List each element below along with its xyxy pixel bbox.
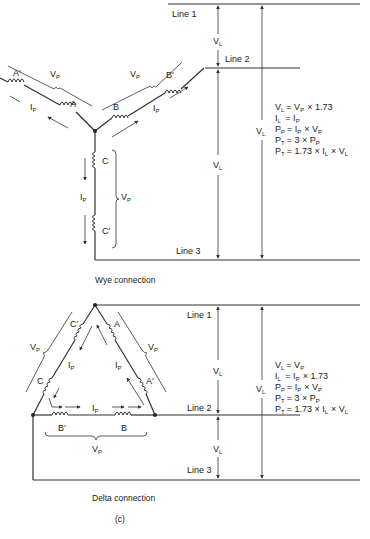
delta-coil-a-prime: A′: [146, 376, 154, 386]
wye-line2-label: Line 2: [225, 54, 250, 64]
delta-ip-arrow-c2: [54, 388, 59, 398]
wye-ip-line-a: [10, 96, 20, 102]
wye-ip-label-b: IP: [153, 103, 160, 114]
delta-ip-label-left: IP: [68, 360, 75, 371]
wye-coil-a: A: [70, 99, 76, 109]
delta-vl12-label: VL: [213, 366, 223, 377]
delta-caption: Delta connection: [92, 493, 156, 503]
delta-vp-label-left: VP: [30, 342, 40, 353]
wye-vl12-label: VL: [213, 36, 223, 47]
delta-line3-label: Line 3: [187, 465, 212, 475]
wye-vp-label-a: VP: [50, 69, 60, 80]
delta-coil-a: A: [114, 319, 120, 329]
wye-formula-0: VL= VP× 1.73: [275, 102, 332, 113]
wye-formulas: VL= VP× 1.73 IL = IP PP= IP× VP PT= 3 × …: [275, 102, 349, 157]
delta-ip-arrow-b1: [49, 398, 62, 407]
delta-coil-c: C: [37, 376, 44, 386]
delta-formula-1: IL = IP× 1.73: [275, 371, 328, 382]
wye-coil-c: C: [102, 156, 109, 166]
delta-vp-label-right: VP: [148, 342, 158, 353]
wye-formula-2: PP= IP× VP: [275, 124, 322, 135]
delta-line2-label: Line 2: [187, 403, 212, 413]
wye-formula-1: IL = IP: [275, 113, 300, 124]
delta-ip-label-right: IP: [115, 360, 122, 371]
wye-ip-label-a: IP: [30, 102, 37, 113]
wye-coil-b-prime: B′: [166, 70, 174, 80]
delta-formulas: VL= VP IL = IP× 1.73 PP= IP× VP PT= 3 × …: [275, 360, 349, 415]
delta-node-right: [153, 413, 157, 417]
delta-coil-b-prime: B′: [58, 423, 66, 433]
three-phase-connection-diagram: Line 1 Line 2 Line 3 A′ A B B′ C C′ VP V…: [0, 0, 370, 539]
delta-formula-0: VL= VP: [275, 360, 304, 371]
wye-vp-label-c: VP: [121, 192, 131, 203]
wye-ip-arrow-b: [112, 121, 138, 137]
delta-formula-2: PP= IP× VP: [275, 382, 322, 393]
delta-formula-4: PT= 1.73 × IL× VL: [275, 404, 349, 415]
delta-diagram: Line 1 Line 2 Line 3 C′ C A A′ B′ B VP V…: [26, 303, 360, 503]
delta-node-top: [93, 303, 97, 307]
delta-node-left: [31, 413, 35, 417]
wye-vp-brace-c: [112, 150, 119, 248]
delta-vp-brace-right: [118, 312, 166, 392]
delta-ip-label-bottom: IP: [92, 403, 99, 414]
delta-coil-c-prime: C′: [70, 319, 78, 329]
wye-caption: Wye connection: [95, 275, 156, 285]
delta-formula-3: PT= 3 × PP: [275, 393, 320, 404]
wye-ip-arrow-a: [48, 117, 68, 128]
delta-ip-arrow-a: [97, 325, 107, 345]
delta-vl23-label: VL: [213, 444, 223, 455]
wye-vl23-label: VL: [213, 160, 223, 171]
delta-vl13-label: VL: [256, 384, 266, 395]
delta-vp-label-bottom: VP: [92, 444, 102, 455]
wye-line1-label: Line 1: [172, 9, 197, 19]
wye-formula-4: PT= 1.73 × IL× VL: [275, 146, 349, 157]
delta-winding-a: [95, 305, 155, 415]
wye-ip-label-c: IP: [80, 192, 87, 203]
wye-coil-b: B: [113, 102, 119, 112]
wye-coil-a-prime: A′: [13, 68, 21, 78]
wye-vl13-label: VL: [256, 126, 266, 137]
figure-label: (c): [115, 514, 125, 524]
wye-vp-label-b: VP: [130, 69, 140, 80]
wye-winding-b: [95, 68, 204, 131]
delta-vp-brace-bottom: [45, 432, 147, 440]
delta-coil-b: B: [121, 423, 127, 433]
wye-line3-label: Line 3: [176, 246, 201, 256]
delta-ip-arrow-c: [80, 326, 92, 350]
wye-formula-3: PT= 3 × PP: [275, 135, 320, 146]
wye-coil-c-prime: C′: [102, 226, 110, 236]
wye-winding-c: [93, 131, 96, 260]
wye-diagram: Line 1 Line 2 Line 3 A′ A B B′ C C′ VP V…: [0, 4, 360, 285]
delta-line1-label: Line 1: [187, 310, 212, 320]
